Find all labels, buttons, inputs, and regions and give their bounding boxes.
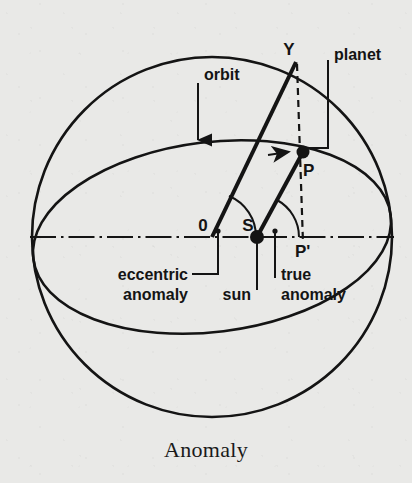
label-eccentric-anomaly-line1: eccentric xyxy=(118,266,188,283)
planet-leader-line xyxy=(306,60,328,148)
orbit-direction-arrow xyxy=(268,152,288,155)
figure-caption: Anomaly xyxy=(0,437,412,463)
label-point-P-prime: P' xyxy=(295,242,310,261)
label-orbit: orbit xyxy=(204,66,240,83)
eccentric-anomaly-ray xyxy=(212,62,296,237)
label-point-P: P xyxy=(303,161,314,180)
figure-canvas: Y P P' 0 S orbit planet eccentric anomal… xyxy=(0,0,412,483)
label-point-Y: Y xyxy=(283,40,295,59)
true-anomaly-arc xyxy=(277,200,299,237)
label-true-anomaly-line2: anomaly xyxy=(281,286,346,303)
label-point-O: 0 xyxy=(198,216,207,235)
label-true-anomaly-line1: true xyxy=(281,266,311,283)
label-sun: sun xyxy=(223,286,251,303)
true-anomaly-leader-dot xyxy=(272,228,277,233)
eccentric-anomaly-leader-dot xyxy=(215,228,220,233)
label-eccentric-anomaly-line2: anomaly xyxy=(123,286,188,303)
label-planet: planet xyxy=(334,46,382,63)
label-point-S: S xyxy=(242,216,253,235)
anomaly-diagram: Y P P' 0 S orbit planet eccentric anomal… xyxy=(0,0,412,483)
